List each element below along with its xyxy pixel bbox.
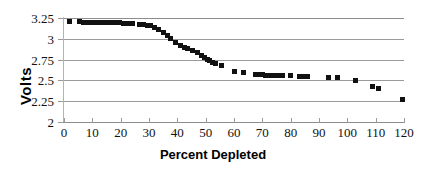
y-tick-label: 3.25 <box>31 12 54 25</box>
x-tick-mark <box>149 118 150 123</box>
x-tick-mark <box>64 118 65 123</box>
x-tick-mark <box>262 118 263 123</box>
x-tick-label: 110 <box>366 126 385 139</box>
data-point <box>168 36 173 41</box>
data-point <box>232 69 237 74</box>
x-axis-title: Percent Depleted <box>0 147 426 162</box>
x-tick-label: 30 <box>143 126 156 139</box>
x-tick-label: 0 <box>61 126 68 139</box>
data-point <box>376 86 381 91</box>
y-tick-label: 2.75 <box>31 53 54 66</box>
data-point <box>219 63 224 68</box>
x-tick-mark <box>234 118 235 123</box>
y-axis-line <box>63 17 64 123</box>
x-tick-label: 60 <box>228 126 241 139</box>
data-point <box>86 20 91 25</box>
data-point <box>241 70 246 75</box>
x-tick-label: 80 <box>284 126 297 139</box>
data-point <box>67 19 72 24</box>
x-tick-label: 100 <box>338 126 358 139</box>
data-point <box>370 84 375 89</box>
gridline-y <box>64 18 404 19</box>
x-tick-mark <box>206 118 207 123</box>
data-point <box>100 20 105 25</box>
data-point <box>213 61 218 66</box>
data-point <box>185 46 190 51</box>
data-point <box>326 75 331 80</box>
chart-container: 22.252.52.7533.25 0102030405060708090100… <box>0 0 426 171</box>
x-tick-mark <box>121 118 122 123</box>
x-tick-mark <box>404 118 405 123</box>
data-point <box>305 74 310 79</box>
gridline-y <box>64 60 404 61</box>
x-tick-label: 50 <box>199 126 212 139</box>
gridline-y <box>64 39 404 40</box>
y-tick-mark <box>58 18 63 19</box>
x-tick-label: 120 <box>394 126 414 139</box>
gridline-y <box>64 101 404 102</box>
y-tick-mark <box>58 60 63 61</box>
x-tick-label: 40 <box>171 126 184 139</box>
y-tick-label: 3 <box>48 32 55 45</box>
x-tick-mark <box>291 118 292 123</box>
x-tick-label: 90 <box>313 126 326 139</box>
y-tick-label: 2.5 <box>38 74 54 87</box>
data-point <box>400 97 405 102</box>
x-tick-mark <box>177 118 178 123</box>
data-point <box>335 75 340 80</box>
y-tick-label: 2.25 <box>31 95 54 108</box>
x-axis-tick-labels: 0102030405060708090100110120 <box>0 126 426 146</box>
x-tick-label: 70 <box>256 126 269 139</box>
data-point <box>130 21 135 26</box>
x-tick-mark <box>92 118 93 123</box>
y-tick-mark <box>58 39 63 40</box>
data-point <box>280 73 285 78</box>
data-point <box>288 73 293 78</box>
plot-area <box>64 18 404 122</box>
x-tick-label: 10 <box>86 126 99 139</box>
x-tick-label: 20 <box>114 126 127 139</box>
x-tick-mark <box>376 118 377 123</box>
y-tick-mark <box>58 122 63 123</box>
x-tick-mark <box>347 118 348 123</box>
y-tick-mark <box>58 101 63 102</box>
data-point <box>353 78 358 83</box>
y-tick-mark <box>58 80 63 81</box>
x-tick-mark <box>319 118 320 123</box>
y-axis-title: Volts <box>17 66 34 104</box>
